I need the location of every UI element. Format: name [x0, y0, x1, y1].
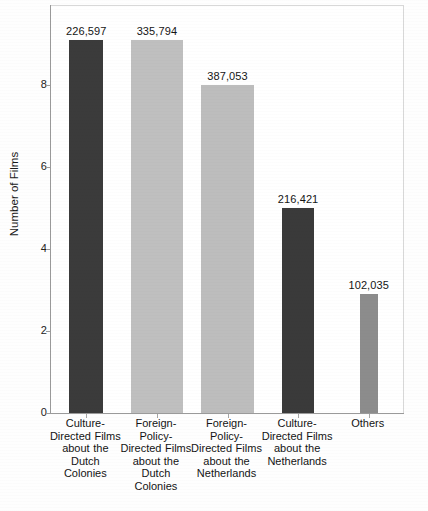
bar-group[interactable]: 216,421 — [282, 5, 314, 413]
x-tick-label-4: Others — [338, 417, 398, 430]
y-tick-label-8: 8 — [0, 79, 47, 90]
x-tick-label-line: about the — [256, 442, 338, 455]
x-tick-label-line: Culture- — [46, 417, 124, 430]
bar-group[interactable]: 335,794 — [131, 5, 183, 413]
x-tick-label-line: Directed Films — [256, 430, 338, 443]
y-tick-label-2: 2 — [0, 325, 47, 336]
y-tick-label-0: 0 — [0, 407, 47, 418]
bar-value-label: 216,421 — [278, 193, 318, 205]
x-tick-label-0: Culture-Directed Filmsabout theDutchColo… — [46, 417, 124, 480]
x-tick-label-line: Colonies — [115, 480, 197, 493]
bar-value-label: 387,053 — [207, 70, 247, 82]
x-tick-label-line: about the — [46, 442, 124, 455]
x-tick-label-3: Culture-Directed Filmsabout theNetherlan… — [256, 417, 338, 467]
y-axis-title: Number of Films — [8, 134, 20, 254]
bars-layer: 226,597335,794387,053216,421102,035 — [51, 5, 404, 413]
bar-rect[interactable] — [201, 85, 254, 413]
x-tick-label-line: Others — [338, 417, 398, 430]
bar-group[interactable]: 102,035 — [360, 5, 378, 413]
x-tick-label-line: Colonies — [46, 467, 124, 480]
bar-rect[interactable] — [69, 40, 103, 413]
bar-value-label: 226,597 — [66, 25, 106, 37]
bar-rect[interactable] — [282, 208, 314, 413]
bar-rect[interactable] — [131, 40, 183, 413]
bar-value-label: 102,035 — [348, 279, 388, 291]
x-tick-label-line: Dutch — [46, 455, 124, 468]
bar-group[interactable]: 387,053 — [201, 5, 254, 413]
x-axis-labels: Culture-Directed Filmsabout theDutchColo… — [50, 417, 404, 497]
bar-value-label: 335,794 — [137, 25, 177, 37]
figure-bar-chart: 02468 Number of Films 226,597335,794387,… — [0, 0, 428, 511]
bar-rect[interactable] — [360, 294, 378, 413]
bar-group[interactable]: 226,597 — [69, 5, 103, 413]
x-tick-label-line: Directed Films — [46, 430, 124, 443]
x-tick-label-line: Netherlands — [256, 455, 338, 468]
y-tick-mark-0 — [46, 413, 51, 414]
x-tick-label-line: Culture- — [256, 417, 338, 430]
x-tick-label-line: Netherlands — [186, 467, 268, 480]
